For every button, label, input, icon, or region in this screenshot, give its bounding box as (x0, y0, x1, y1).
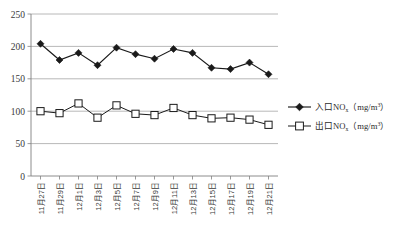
data-point-outlet (94, 114, 101, 121)
x-tick-label: 12月13日 (189, 182, 198, 215)
y-tick-label: 100 (11, 107, 26, 117)
x-axis-labels: 11月27日11月29日12月1日12月3日12月5日12月7日12月9日12月… (37, 182, 274, 215)
data-point-outlet (75, 100, 82, 107)
x-axis-tickmarks (41, 176, 269, 180)
x-tick-label: 11月27日 (37, 182, 46, 214)
x-tick-label: 12月5日 (113, 182, 122, 211)
data-point-outlet (189, 111, 196, 118)
x-tick-label: 11月29日 (56, 182, 65, 214)
data-point-outlet (113, 102, 120, 109)
data-point-outlet (37, 108, 44, 115)
x-tick-label: 12月1日 (75, 182, 84, 211)
data-point-outlet (170, 104, 177, 111)
open-square-icon (296, 122, 304, 130)
data-point-outlet (56, 110, 63, 117)
data-point-outlet (227, 114, 234, 121)
y-tick-label: 0 (20, 172, 25, 182)
x-tick-label: 12月17日 (227, 182, 236, 215)
y-axis-tickmarks (28, 14, 32, 176)
x-tick-label: 12月19日 (246, 182, 255, 215)
data-point-outlet (208, 115, 215, 122)
y-tick-label: 150 (11, 74, 26, 84)
x-tick-label: 12月9日 (151, 182, 160, 211)
y-tick-label: 200 (11, 42, 26, 52)
data-point-outlet (265, 121, 272, 128)
legend-label-inlet: 入口NOx（mg/m3） (315, 102, 389, 113)
x-tick-label: 12月21日 (265, 182, 274, 215)
legend-item-inlet: 入口NOx（mg/m3） (288, 102, 389, 113)
filled-diamond-icon (296, 103, 304, 111)
x-tick-label: 12月15日 (208, 182, 217, 215)
chart-legend: 入口NOx（mg/m3） 出口NOx（mg/m3） (288, 102, 389, 132)
legend-label-outlet: 出口NOx（mg/m3） (315, 120, 389, 132)
data-point-outlet (151, 111, 158, 118)
y-tick-label: 250 (11, 10, 26, 20)
nox-concentration-line-chart: 250 200 150 100 50 0 11月27日11月29日12月1日12… (0, 0, 407, 240)
legend-item-outlet: 出口NOx（mg/m3） (288, 120, 389, 132)
x-tick-label: 12月3日 (94, 182, 103, 211)
y-tick-label: 50 (16, 139, 26, 149)
data-point-outlet (246, 116, 253, 123)
y-axis-labels: 250 200 150 100 50 0 (11, 10, 26, 182)
x-tick-label: 12月11日 (170, 182, 179, 214)
plot-area-background (31, 14, 278, 176)
data-point-outlet (132, 110, 139, 117)
x-tick-label: 12月7日 (132, 182, 141, 211)
chart-container: 250 200 150 100 50 0 11月27日11月29日12月1日12… (0, 0, 407, 240)
